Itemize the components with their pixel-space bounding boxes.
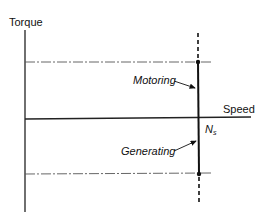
- max-generating-torque-line: [25, 173, 212, 174]
- generating-label: Generating: [121, 145, 176, 157]
- sync-speed-label: Ns: [205, 123, 217, 136]
- generating-arrow-icon: [174, 141, 196, 151]
- upper-limit-dot: [196, 60, 200, 64]
- motoring-arrow-icon: [174, 81, 195, 88]
- sync-speed-symbol: N: [205, 123, 213, 135]
- x-axis-label: Speed: [223, 103, 255, 115]
- torque-speed-diagram: Torque Speed Motoring Generating Ns: [0, 0, 267, 221]
- lower-limit-dot: [197, 172, 201, 176]
- speed-axis: [25, 117, 251, 119]
- sync-speed-subscript: s: [213, 129, 217, 136]
- sync-speed-operating-line: [198, 62, 199, 174]
- motoring-label: Motoring: [133, 74, 177, 86]
- y-axis-label: Torque: [9, 16, 43, 28]
